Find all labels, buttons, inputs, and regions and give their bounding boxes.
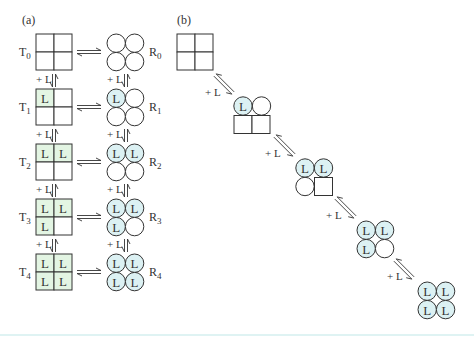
panel-a-row-0: T0R0+ L+ L — [19, 34, 162, 87]
t-subunit — [54, 107, 72, 125]
t-state-label: T0 — [19, 45, 31, 61]
t-state-label: T1 — [19, 100, 31, 116]
ligand-label: L — [131, 275, 139, 290]
t-state-label: T4 — [19, 265, 31, 281]
t-subunit — [195, 34, 213, 52]
add-ligand-label: + L — [107, 238, 123, 250]
r-subunit — [125, 52, 143, 70]
panel-b-step-0 — [177, 34, 213, 70]
ligand-label: L — [41, 274, 49, 289]
ligand-label: L — [41, 219, 49, 234]
t-state-label: T2 — [19, 155, 31, 171]
t-subunit — [36, 107, 54, 125]
equilibrium-arrow — [77, 268, 101, 276]
add-ligand-label: + L — [326, 209, 342, 221]
ligand-label: L — [381, 223, 389, 238]
ligand-label: L — [423, 303, 431, 318]
r-state-label: R1 — [149, 100, 162, 116]
r-subunit — [375, 239, 393, 257]
add-ligand-label: + L — [36, 128, 52, 140]
ligand-label: L — [362, 242, 370, 257]
ligand-label: L — [112, 256, 120, 271]
ligand-label: L — [131, 146, 139, 161]
r-subunit — [125, 34, 143, 52]
ligand-label: L — [112, 146, 120, 161]
equilibrium-arrow — [77, 158, 101, 166]
t-subunit — [36, 52, 54, 70]
add-ligand-label: + L — [387, 270, 403, 282]
add-ligand-label: + L — [107, 128, 123, 140]
ligand-label: L — [41, 146, 49, 161]
panel-b: + LL+ LLL+ LLLL+ LLLLL — [177, 34, 455, 319]
t-subunit — [54, 89, 72, 107]
equilibrium-arrow — [77, 103, 101, 111]
diagram-canvas: (a) (b) T0R0+ L+ LT1LLR1+ L+ LT2LLLLR2+ … — [0, 0, 474, 341]
ligand-label: L — [41, 201, 49, 216]
r-subunit — [107, 34, 125, 52]
add-ligand-label: + L — [205, 86, 221, 98]
add-ligand-label: + L — [36, 73, 52, 85]
panel-b-step-1: L — [234, 97, 271, 134]
equilibrium-arrow — [77, 213, 101, 221]
r-subunit — [125, 162, 143, 180]
r-state-label: R2 — [149, 155, 162, 171]
panel-a: T0R0+ L+ LT1LLR1+ L+ LT2LLLLR2+ L+ LT3LL… — [19, 34, 162, 291]
t-subunit — [54, 34, 72, 52]
t-subunit — [54, 52, 72, 70]
add-ligand-label: + L — [36, 183, 52, 195]
ligand-label: L — [41, 256, 49, 271]
ligand-binding-arrow — [122, 239, 130, 252]
t-subunit — [234, 116, 252, 134]
r-state-tetramer: LLL — [357, 221, 394, 258]
r-state-label: R3 — [149, 210, 162, 226]
ligand-label: L — [112, 220, 120, 235]
add-ligand-label: + L — [265, 147, 281, 159]
panel-b-label: (b) — [177, 13, 191, 27]
panel-b-step-2: LL — [296, 159, 333, 196]
ligand-label: L — [41, 91, 49, 106]
r-state-tetramer: LLLL — [418, 282, 455, 319]
r-state-tetramer: LLL — [107, 199, 144, 236]
t-subunit — [36, 34, 54, 52]
ligand-label: L — [59, 146, 67, 161]
add-ligand-label: + L — [36, 238, 52, 250]
r-subunit — [252, 97, 270, 115]
equilibrium-arrow — [77, 48, 101, 56]
t-subunit — [54, 217, 72, 235]
ligand-label: L — [59, 201, 67, 216]
r-subunit — [107, 162, 125, 180]
t-state-tetramer: LLLL — [36, 254, 72, 290]
t-subunit — [177, 52, 195, 70]
t-subunit — [54, 162, 72, 180]
r-subunit — [125, 89, 143, 107]
r-subunit — [125, 217, 143, 235]
ligand-label: L — [131, 256, 139, 271]
t-subunit — [315, 178, 333, 196]
add-ligand-label: + L — [107, 183, 123, 195]
panel-a-row-3: T3LLLLLLR3+ L+ L — [19, 199, 162, 252]
t-subunit — [36, 162, 54, 180]
panel-a-row-1: T1LLR1+ L+ L — [19, 89, 162, 142]
t-state-tetramer: L — [36, 89, 72, 125]
ligand-binding-arrow — [122, 129, 130, 142]
t-subunit — [252, 116, 270, 134]
r-subunit — [107, 52, 125, 70]
t-subunit — [195, 52, 213, 70]
r-state-label: R4 — [149, 265, 162, 281]
panel-a-row-4: T4LLLLLLLLR4 — [19, 254, 162, 291]
ligand-label: L — [239, 99, 247, 114]
ligand-label: L — [423, 284, 431, 299]
ligand-label: L — [131, 201, 139, 216]
ligand-label: L — [442, 303, 450, 318]
ligand-label: L — [362, 223, 370, 238]
r-state-tetramer: LLLL — [107, 254, 144, 291]
r-state-label: R0 — [149, 45, 162, 61]
ligand-label: L — [442, 284, 450, 299]
r-subunit — [107, 107, 125, 125]
ligand-label: L — [112, 91, 120, 106]
ligand-label: L — [320, 161, 328, 176]
r-subunit — [125, 107, 143, 125]
panel-b-step-4: LLLL — [418, 282, 455, 319]
ligand-binding-arrow — [122, 74, 130, 87]
ligand-binding-arrow — [122, 184, 130, 197]
